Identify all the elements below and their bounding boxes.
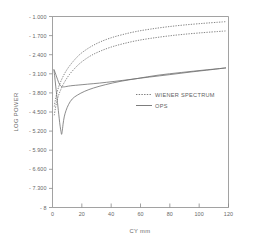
plot-frame [53, 17, 229, 208]
series-line [54, 68, 226, 134]
x-axis-title: CY mm [130, 228, 151, 234]
y-tick-label: - 1.000 [29, 14, 46, 20]
x-tick-label: 60 [137, 211, 143, 217]
log-power-line-chart: - 1.000- 1.700- 2.400- 3.100- 3.800- 4.5… [0, 0, 253, 242]
y-axis-title: LOG POWER [13, 93, 19, 132]
y-tick-label: - 1.700 [29, 33, 46, 39]
x-tick-label: 80 [167, 211, 173, 217]
data-series-group [54, 22, 226, 135]
y-tick-label: - 7.300 [29, 185, 46, 191]
y-tick-label: - 6.600 [29, 166, 46, 172]
x-tick-label: 20 [79, 211, 85, 217]
y-tick-label: - 2.400 [29, 52, 46, 58]
y-tick-label: - 5.200 [29, 128, 46, 134]
frame-border [53, 17, 229, 208]
x-axis-tick-marks [82, 204, 229, 208]
chart-figure: - 1.000- 1.700- 2.400- 3.100- 3.800- 4.5… [0, 0, 253, 242]
legend-label-ops: OPS [155, 103, 168, 109]
x-tick-label: 0 [51, 211, 54, 217]
y-tick-label: - 3.100 [29, 71, 46, 77]
y-tick-label: - 5.900 [29, 147, 46, 153]
y-tick-label: - 4.500 [29, 109, 46, 115]
chart-legend: WIENER SPECTRUM OPS [136, 92, 215, 109]
x-tick-label: 120 [224, 211, 233, 217]
x-axis-tick-labels: 020406080100120 [51, 211, 233, 217]
y-axis-tick-marks [49, 17, 53, 208]
series-line [54, 31, 225, 115]
x-tick-label: 100 [195, 211, 204, 217]
y-tick-label: - 3.800 [29, 90, 46, 96]
y-axis-tick-labels: - 1.000- 1.700- 2.400- 3.100- 3.800- 4.5… [29, 14, 46, 211]
legend-label-wiener-spectrum: WIENER SPECTRUM [155, 92, 215, 98]
x-tick-label: 40 [108, 211, 114, 217]
y-tick-label: - 8 [40, 205, 47, 211]
